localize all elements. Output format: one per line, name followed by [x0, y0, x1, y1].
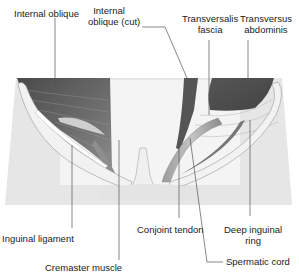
label-cremaster-muscle: Cremaster muscle: [45, 262, 122, 273]
label-deep-inguinal-ring: Deep inguinal ring: [224, 224, 282, 246]
label-inguinal-ligament: Inguinal ligament: [2, 233, 74, 244]
label-spermatic-cord: Spermatic cord: [226, 256, 290, 267]
label-internal-oblique: Internal oblique: [14, 8, 79, 19]
label-transversus-abdominis: Transversus abdominis: [240, 13, 292, 35]
label-transversalis-fascia: Transversalis fascia: [182, 13, 238, 35]
label-conjoint-tendon: Conjoint tendon: [137, 224, 204, 235]
label-internal-oblique-cut: Internal oblique (cut): [88, 5, 140, 27]
